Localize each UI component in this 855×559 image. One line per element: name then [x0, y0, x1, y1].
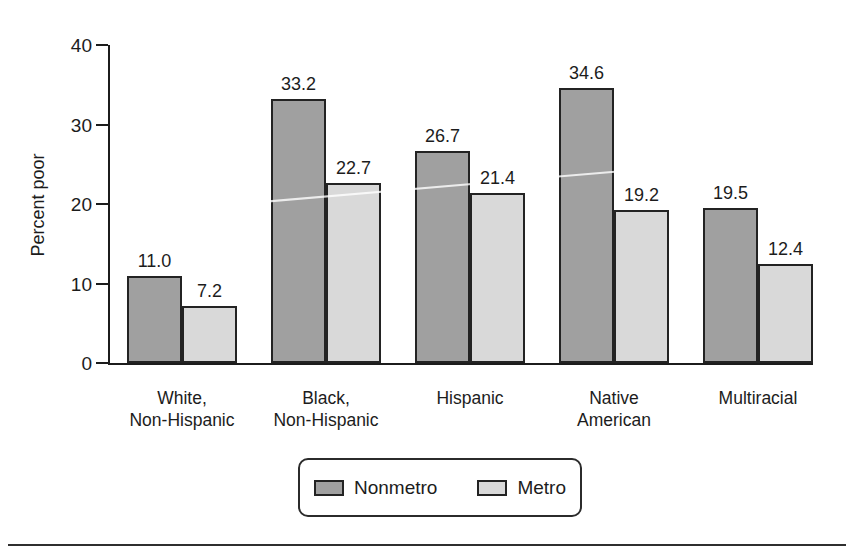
value-label-metro-white-non-hispanic: 7.2: [165, 281, 255, 301]
legend-label-nonmetro: Nonmetro: [354, 477, 437, 499]
scanned-chart-figure: Percent poor 010203040 11.07.233.222.726…: [0, 0, 855, 559]
value-label-nonmetro-multiracial: 19.5: [686, 183, 776, 203]
category-label-line: Native: [539, 387, 689, 409]
value-label-nonmetro-white-non-hispanic: 11.0: [110, 251, 200, 271]
bottom-rule: [8, 544, 846, 546]
value-label-nonmetro-hispanic: 26.7: [398, 126, 488, 146]
y-tick-40: [96, 44, 108, 46]
y-tick-label-0: 0: [50, 354, 92, 373]
category-label-white-non-hispanic: White,Non-Hispanic: [107, 387, 257, 431]
value-label-metro-hispanic: 21.4: [453, 168, 543, 188]
category-label-line: Multiracial: [683, 387, 833, 409]
bar-nonmetro-native-american: [559, 88, 614, 363]
bar-chart: Percent poor 010203040 11.07.233.222.726…: [0, 0, 855, 559]
category-label-line: American: [539, 409, 689, 431]
bar-metro-multiracial: [758, 264, 813, 363]
bar-metro-native-american: [614, 210, 669, 363]
y-axis-line: [108, 45, 110, 363]
legend-swatch-metro: [477, 480, 507, 496]
x-axis-line: [108, 363, 813, 365]
value-label-metro-multiracial: 12.4: [741, 239, 831, 259]
value-label-nonmetro-native-american: 34.6: [542, 63, 632, 83]
category-label-multiracial: Multiracial: [683, 387, 833, 409]
y-tick-label-10: 10: [50, 274, 92, 293]
y-tick-label-20: 20: [50, 195, 92, 214]
y-tick-0: [96, 362, 108, 364]
y-tick-label-40: 40: [50, 36, 92, 55]
y-tick-label-30: 30: [50, 115, 92, 134]
category-label-black-non-hispanic: Black,Non-Hispanic: [251, 387, 401, 431]
category-label-line: Hispanic: [395, 387, 545, 409]
legend: Nonmetro Metro: [298, 458, 582, 517]
y-tick-20: [96, 203, 108, 205]
value-label-nonmetro-black-non-hispanic: 33.2: [254, 74, 344, 94]
legend-label-metro: Metro: [517, 477, 566, 499]
bar-nonmetro-black-non-hispanic: [271, 99, 326, 363]
bar-metro-white-non-hispanic: [182, 306, 237, 363]
legend-swatch-nonmetro: [314, 480, 344, 496]
y-tick-30: [96, 124, 108, 126]
category-label-hispanic: Hispanic: [395, 387, 545, 409]
bar-metro-hispanic: [470, 193, 525, 363]
value-label-metro-black-non-hispanic: 22.7: [309, 158, 399, 178]
category-label-line: Non-Hispanic: [107, 409, 257, 431]
category-label-native-american: NativeAmerican: [539, 387, 689, 431]
category-label-line: Non-Hispanic: [251, 409, 401, 431]
y-tick-10: [96, 283, 108, 285]
value-label-metro-native-american: 19.2: [597, 185, 687, 205]
bar-metro-black-non-hispanic: [326, 183, 381, 363]
bar-nonmetro-multiracial: [703, 208, 758, 363]
category-label-line: White,: [107, 387, 257, 409]
y-axis-title: Percent poor: [28, 153, 49, 256]
category-label-line: Black,: [251, 387, 401, 409]
